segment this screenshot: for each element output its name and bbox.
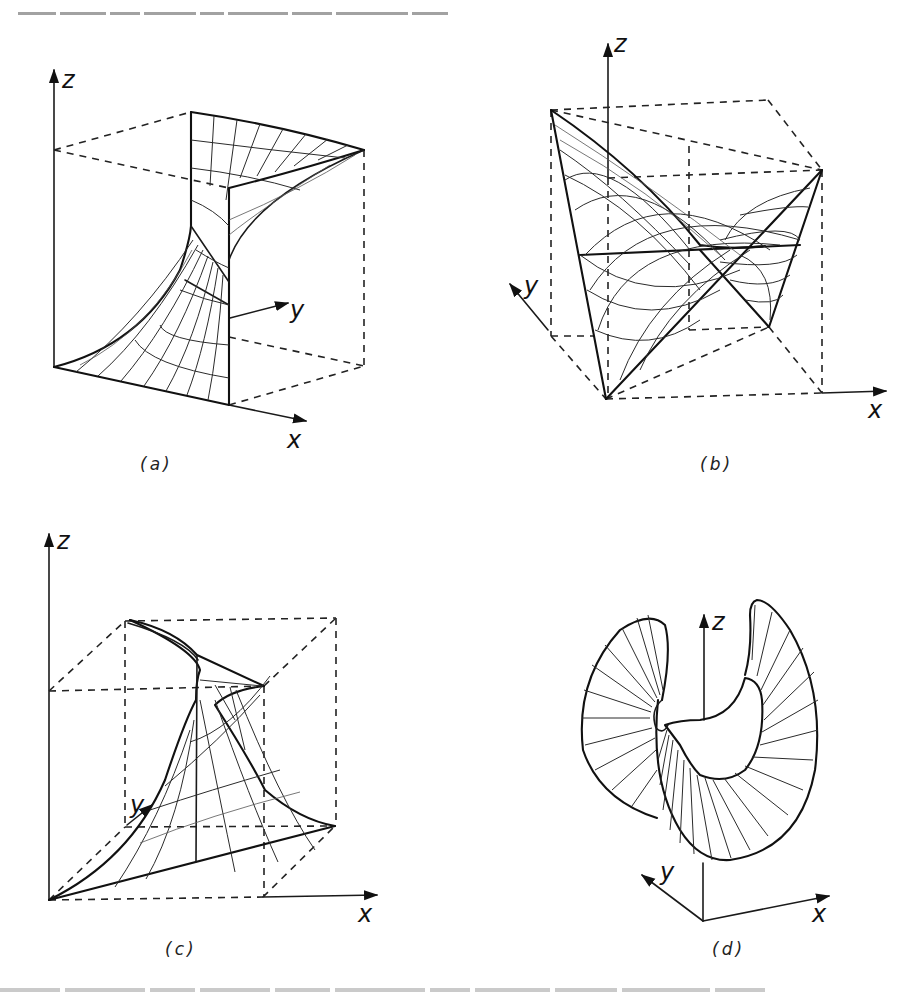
- z-axis-label: z: [56, 527, 71, 555]
- z-axis-label: z: [613, 30, 628, 58]
- panel-c: z x y: [49, 527, 377, 959]
- bounding-box: [49, 618, 336, 900]
- x-axis: [263, 895, 377, 897]
- z-axis-label: z: [61, 66, 76, 94]
- surface: [54, 112, 364, 405]
- y-axis-label: y: [289, 296, 305, 324]
- figure-canvas: z x y: [0, 0, 920, 995]
- surface: [49, 620, 335, 900]
- x-axis: [703, 896, 829, 921]
- x-axis-label: x: [286, 426, 302, 454]
- panel-label-c: (c): [165, 939, 197, 959]
- y-axis-label: y: [659, 858, 675, 886]
- surface: [582, 600, 818, 860]
- surface: [551, 110, 822, 399]
- panel-label-b: (b): [700, 454, 733, 474]
- y-axis-label: y: [523, 272, 539, 300]
- panel-label-a: (a): [140, 454, 173, 474]
- x-axis: [229, 405, 306, 421]
- panel-a: z x y: [54, 66, 364, 474]
- x-axis-label: x: [357, 900, 373, 928]
- bounding-box: [54, 112, 364, 405]
- cropped-caption-text: [0, 988, 920, 995]
- z-axis-label: z: [711, 608, 726, 636]
- panel-b: z x y: [510, 30, 886, 474]
- x-axis: [822, 391, 886, 393]
- panel-d: z x y: [582, 600, 829, 959]
- y-axis: [230, 303, 288, 318]
- y-axis-label: y: [129, 791, 145, 819]
- x-axis-label: x: [811, 900, 827, 928]
- x-axis-label: x: [867, 396, 883, 424]
- panel-label-d: (d): [712, 939, 745, 959]
